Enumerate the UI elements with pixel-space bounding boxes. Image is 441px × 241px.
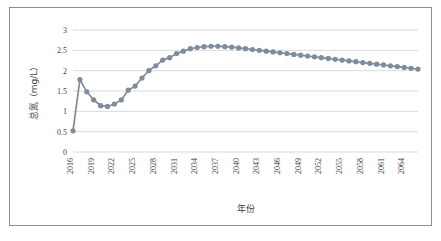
data-point-marker xyxy=(153,63,158,68)
data-point-marker xyxy=(360,60,365,65)
figure-root: 00.511.522.53 20162019202220252028203120… xyxy=(0,0,441,241)
data-point-marker xyxy=(229,44,234,49)
y-tick-label: 0.5 xyxy=(57,128,67,137)
data-point-marker xyxy=(160,57,165,62)
x-tick-label: 2052 xyxy=(314,158,323,174)
x-axis-tick-labels: 2016201920222025202820312034203720402043… xyxy=(66,158,406,174)
data-point-marker xyxy=(291,52,296,57)
data-point-marker xyxy=(139,75,144,80)
data-point-marker xyxy=(208,44,213,49)
x-tick-label: 2055 xyxy=(335,158,344,174)
data-point-marker xyxy=(388,63,393,68)
data-series-total-nitrogen xyxy=(70,44,420,134)
data-point-marker xyxy=(381,62,386,67)
data-point-marker xyxy=(91,97,96,102)
data-point-marker xyxy=(326,56,331,61)
data-point-marker xyxy=(312,54,317,59)
chart-canvas: 00.511.522.53 20162019202220252028203120… xyxy=(0,0,441,241)
y-tick-label: 2 xyxy=(63,67,67,76)
y-tick-label: 1.5 xyxy=(57,87,67,96)
data-point-marker xyxy=(264,49,269,54)
data-point-marker xyxy=(188,46,193,51)
data-point-marker xyxy=(112,101,117,106)
data-point-marker xyxy=(333,57,338,62)
data-point-marker xyxy=(395,64,400,69)
x-axis-title: 年份 xyxy=(237,203,255,214)
x-tick-label: 2058 xyxy=(356,158,365,174)
y-axis-title: 总氮（mg/L） xyxy=(28,62,39,121)
data-point-marker xyxy=(415,66,420,71)
data-point-marker xyxy=(202,44,207,49)
data-point-marker xyxy=(195,45,200,50)
x-tick-label: 2016 xyxy=(66,158,75,174)
data-point-marker xyxy=(222,44,227,49)
data-point-marker xyxy=(181,49,186,54)
x-tick-label: 2064 xyxy=(397,158,406,174)
data-point-marker xyxy=(126,88,131,93)
data-point-marker xyxy=(243,46,248,51)
x-tick-label: 2061 xyxy=(377,158,386,174)
data-point-marker xyxy=(146,68,151,73)
y-tick-label: 2.5 xyxy=(57,46,67,55)
data-point-marker xyxy=(174,51,179,56)
data-point-marker xyxy=(367,61,372,66)
y-tick-label: 3 xyxy=(63,26,67,35)
data-point-marker xyxy=(133,84,138,89)
data-point-marker xyxy=(402,65,407,70)
x-tick-label: 2040 xyxy=(232,158,241,174)
data-point-marker xyxy=(271,49,276,54)
data-point-marker xyxy=(119,97,124,102)
x-tick-label: 2034 xyxy=(190,158,199,174)
x-tick-label: 2043 xyxy=(252,158,261,174)
data-point-marker xyxy=(70,128,75,133)
data-point-marker xyxy=(105,104,110,109)
y-axis-tick-labels: 00.511.522.53 xyxy=(57,26,67,157)
data-point-marker xyxy=(340,57,345,62)
x-tick-label: 2031 xyxy=(170,158,179,174)
x-tick-label: 2025 xyxy=(128,158,137,174)
x-tick-label: 2049 xyxy=(294,158,303,174)
data-point-marker xyxy=(353,59,358,64)
x-tick-label: 2022 xyxy=(107,158,116,174)
data-point-marker xyxy=(319,55,324,60)
data-point-marker xyxy=(409,66,414,71)
x-tick-label: 2028 xyxy=(149,158,158,174)
data-point-marker xyxy=(236,45,241,50)
x-tick-label: 2037 xyxy=(211,158,220,174)
data-point-marker xyxy=(84,89,89,94)
data-point-marker xyxy=(277,50,282,55)
x-tick-label: 2019 xyxy=(87,158,96,174)
series-line-total-nitrogen xyxy=(73,46,418,131)
data-point-marker xyxy=(284,51,289,56)
data-point-marker xyxy=(98,103,103,108)
data-point-marker xyxy=(257,48,262,53)
y-tick-label: 1 xyxy=(63,107,67,116)
data-point-marker xyxy=(374,62,379,67)
y-tick-label: 0 xyxy=(63,148,67,157)
data-point-marker xyxy=(305,53,310,58)
data-point-marker xyxy=(77,77,82,82)
data-point-marker xyxy=(250,47,255,52)
x-tick-label: 2046 xyxy=(273,158,282,174)
data-point-marker xyxy=(167,55,172,60)
data-point-marker xyxy=(346,58,351,63)
chart-plot-area: 00.511.522.53 20162019202220252028203120… xyxy=(0,0,441,241)
data-point-marker xyxy=(215,44,220,49)
data-point-marker xyxy=(298,53,303,58)
